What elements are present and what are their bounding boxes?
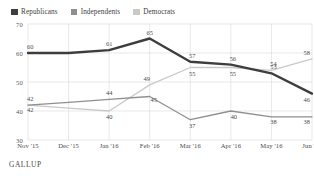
gallup-line-chart: Republicans Independents Democrats 70605… [0,0,314,180]
x-tick-6: May '16 [260,142,282,149]
legend-swatch-republicans [11,9,18,16]
value-label-independents-3: 45 [151,96,157,103]
chart-legend: Republicans Independents Democrats [11,8,175,16]
y-tick-40: 40 [16,108,23,115]
value-label-democrats-6: 54 [270,60,277,67]
value-label-independents-2: 44 [106,89,113,96]
legend-label-independents: Independents [81,8,121,16]
legend-item-republicans[interactable]: Republicans [11,8,58,16]
y-tick-50: 50 [16,79,23,86]
x-tick-0: Nov '15 [17,142,39,149]
plot-canvas: 6061655756534642444537403838424049555554… [28,24,312,140]
value-label-democrats-4: 55 [189,70,195,77]
legend-swatch-independents [71,9,78,16]
legend-label-republicans: Republicans [21,8,58,16]
value-label-independents-6: 38 [270,118,276,125]
x-tick-2: Jan '16 [100,142,119,149]
value-label-independents-0: 42 [27,95,33,102]
x-tick-1: Dec '15 [58,142,79,149]
value-label-democrats-3: 49 [144,75,150,82]
x-axis-labels: Nov '15Dec '15Jan '16Feb '16Mar '16Apr '… [28,142,312,154]
legend-label-democrats: Democrats [143,8,175,16]
y-tick-70: 70 [16,21,23,28]
value-label-republicans-5: 56 [230,55,236,62]
value-label-independents-5: 40 [231,113,237,120]
x-tick-7: Jun '16 [302,142,314,149]
plot-area: 7060504030 60616557565346424445374038384… [0,24,314,140]
y-tick-60: 60 [16,50,23,57]
value-label-independents-4: 37 [189,122,196,129]
value-label-republicans-2: 61 [106,40,112,47]
x-tick-4: Mar '16 [180,142,201,149]
value-label-democrats-0: 42 [27,106,33,113]
legend-swatch-democrats [133,9,140,16]
value-label-republicans-7: 46 [304,96,310,103]
y-axis-labels: 7060504030 [0,24,26,140]
value-label-democrats-7: 58 [304,49,310,56]
value-label-democrats-5: 55 [230,70,236,77]
value-label-republicans-3: 65 [147,29,153,36]
value-label-republicans-0: 60 [27,43,33,50]
x-tick-5: Apr '16 [221,142,241,149]
x-tick-3: Feb '16 [140,142,160,149]
value-label-republicans-4: 57 [189,52,196,59]
chart-svg: 6061655756534642444537403838424049555554… [28,24,312,140]
legend-item-independents[interactable]: Independents [71,8,121,16]
source-gallup: GALLUP [9,160,42,169]
legend-item-democrats[interactable]: Democrats [133,8,175,16]
value-label-independents-7: 38 [304,118,310,125]
value-label-democrats-2: 40 [106,113,112,120]
